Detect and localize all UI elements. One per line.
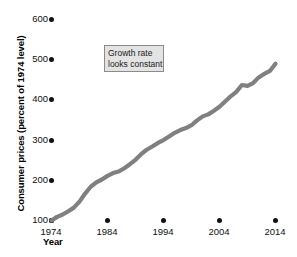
chart-container: Consumer prices (percent of 1974 level) …	[0, 0, 297, 257]
data-series-line	[52, 64, 276, 221]
annotation-line-1: Growth rate	[108, 48, 163, 59]
annotation-callout: Growth rate looks constant	[104, 45, 164, 72]
plot-area	[0, 0, 297, 257]
annotation-line-2: looks constant	[108, 59, 163, 70]
